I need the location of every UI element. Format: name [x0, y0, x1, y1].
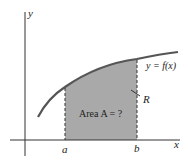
x-axis-label: x	[174, 139, 179, 150]
tick-label-b: b	[134, 143, 140, 154]
region-label: R	[143, 94, 150, 105]
area-label: Area A = ?	[79, 109, 122, 119]
curve-label: y = f(x)	[146, 61, 176, 71]
area-under-curve-diagram: y x y = f(x) R Area A = ? a b	[0, 0, 188, 161]
tick-label-a: a	[62, 144, 68, 155]
shaded-region	[65, 59, 137, 140]
y-axis-label: y	[28, 8, 33, 19]
diagram-graphic	[0, 0, 188, 161]
